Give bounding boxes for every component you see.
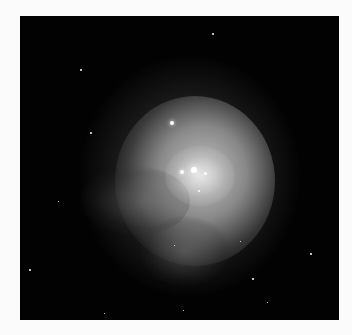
star [58,201,59,202]
star [267,302,268,303]
star [174,245,175,246]
star [204,172,207,175]
star [183,310,184,311]
nebula-core [165,146,235,206]
star [252,278,254,280]
star [212,33,214,35]
nebula-lower-lobe [140,216,230,286]
star [180,170,184,174]
star [240,241,241,242]
star [191,167,197,173]
star [310,253,312,255]
star [80,69,82,71]
star [170,121,174,125]
star [90,132,92,134]
nebula-photo [20,16,339,320]
star [198,190,200,192]
star [29,269,31,271]
star [104,313,105,314]
